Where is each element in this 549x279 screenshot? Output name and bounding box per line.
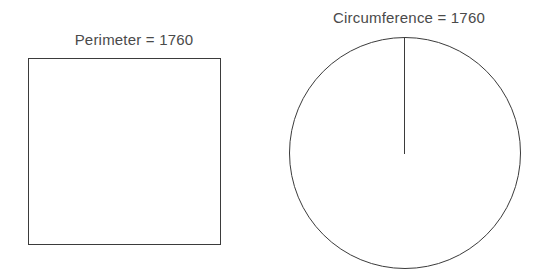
square-perimeter-label: Perimeter = 1760 — [75, 32, 194, 47]
circle-circumference-label: Circumference = 1760 — [333, 10, 485, 25]
geometry-figure: Perimeter = 1760 Circumference = 1760 — [0, 0, 549, 279]
square-shape — [29, 59, 221, 245]
